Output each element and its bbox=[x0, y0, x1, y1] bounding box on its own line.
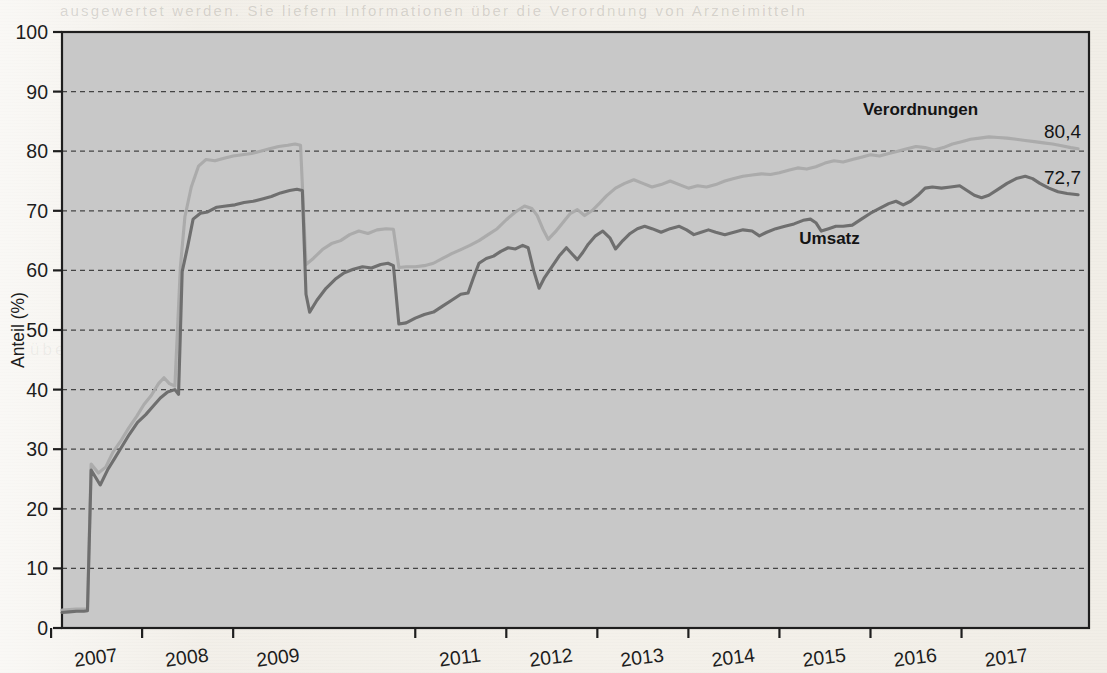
y-tick-label: 30 bbox=[26, 438, 48, 460]
x-tick-label: 2009 bbox=[255, 643, 301, 670]
y-tick-label: 10 bbox=[26, 557, 48, 579]
x-tick-label: 2011 bbox=[438, 644, 482, 671]
chart-svg: 0102030405060708090100 20072008200920112… bbox=[0, 0, 1107, 673]
x-tick-label: 2013 bbox=[619, 643, 665, 670]
y-tick-label: 40 bbox=[26, 379, 48, 401]
series-end-value-umsatz: 72,7 bbox=[1044, 167, 1081, 188]
series-label-verordnungen: Verordnungen bbox=[863, 100, 978, 119]
x-tick-label: 2016 bbox=[892, 643, 938, 670]
series-end-value-verordnungen: 80,4 bbox=[1044, 121, 1081, 142]
x-tick-label: 2014 bbox=[710, 643, 756, 670]
y-tick-label: 100 bbox=[15, 21, 48, 43]
y-tick-label: 90 bbox=[26, 81, 48, 103]
y-tick-label: 70 bbox=[26, 200, 48, 222]
y-tick-label: 60 bbox=[26, 259, 48, 281]
x-tick-label: 2007 bbox=[73, 643, 119, 670]
line-chart: 0102030405060708090100 20072008200920112… bbox=[0, 0, 1107, 673]
x-tick-label: 2017 bbox=[983, 643, 1029, 670]
x-tick-label: 2008 bbox=[164, 643, 210, 670]
y-tick-label: 0 bbox=[37, 617, 48, 639]
x-tick-label: 2015 bbox=[801, 643, 847, 670]
y-axis-title-text: Anteil (%) bbox=[8, 292, 28, 368]
x-tick-label: 2012 bbox=[528, 643, 574, 670]
y-tick-label: 50 bbox=[26, 319, 48, 341]
x-axis-tick-labels: 2007200820092011201220132014201520162017 bbox=[51, 628, 1029, 671]
series-label-umsatz: Umsatz bbox=[799, 229, 859, 248]
y-tick-label: 80 bbox=[26, 140, 48, 162]
y-axis-title: Anteil (%) bbox=[8, 292, 28, 368]
y-tick-label: 20 bbox=[26, 498, 48, 520]
